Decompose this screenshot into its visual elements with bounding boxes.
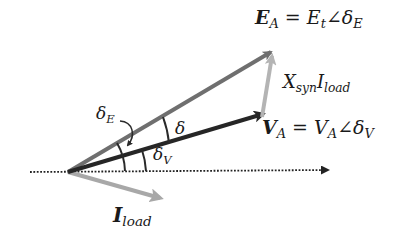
i-load-vector: [68, 172, 160, 198]
x-sub: syn: [296, 81, 317, 95]
i-load-label: Iload: [113, 205, 152, 225]
i-load-sub: load: [122, 213, 151, 229]
v-a-angle: ∠δ: [337, 116, 364, 138]
e-a-equals: =: [279, 6, 307, 28]
delta-v-symbol: δ: [153, 144, 163, 164]
v-a-label: VA = VA∠δV: [262, 118, 374, 137]
i-symbol: I: [317, 71, 324, 92]
v-a-symbol: V: [262, 116, 277, 138]
e-a-magnitude: E: [307, 6, 321, 28]
v-a-angle-sub: V: [365, 126, 374, 141]
delta-e-symbol: δ: [96, 103, 106, 123]
i-sub: load: [324, 81, 350, 95]
delta-label: δ: [175, 120, 185, 137]
delta-symbol: δ: [175, 118, 185, 138]
x-syn-i-load-vector: [262, 56, 272, 117]
e-a-angle-sub: E: [353, 16, 362, 31]
e-a-angle: ∠δ: [326, 6, 353, 28]
v-a-magnitude: V: [314, 116, 328, 138]
x-syn-i-load-label: XsynIload: [283, 73, 350, 91]
e-a-symbol-sub: A: [269, 16, 278, 31]
delta-v-label: δV: [153, 146, 172, 163]
e-a-symbol: E: [255, 6, 269, 28]
delta-v-arc: [142, 150, 146, 171]
delta-e-sub: E: [106, 112, 114, 126]
x-symbol: X: [283, 71, 296, 92]
delta-e-label: δE: [96, 105, 115, 122]
e-a-label: EA = Et∠δE: [255, 8, 363, 27]
v-a-equals: =: [286, 116, 314, 138]
v-a-magnitude-sub: A: [328, 126, 337, 141]
i-load-symbol: I: [113, 203, 122, 227]
delta-arc: [163, 117, 169, 143]
delta-v-sub: V: [163, 153, 171, 167]
v-a-symbol-sub: A: [277, 126, 286, 141]
